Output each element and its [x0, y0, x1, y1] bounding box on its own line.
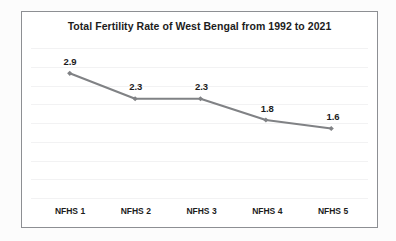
category-label: NFHS 4 — [252, 206, 282, 216]
category-label: NFHS 5 — [318, 206, 348, 216]
data-point-marker — [263, 117, 268, 122]
chart-title: Total Fertility Rate of West Bengal from… — [22, 20, 377, 32]
category-label: NFHS 2 — [121, 206, 151, 216]
chart-frame: Total Fertility Rate of West Bengal from… — [21, 11, 378, 228]
data-point-label: 2.3 — [195, 81, 208, 92]
data-point-marker — [198, 96, 203, 101]
category-label: NFHS 3 — [186, 206, 216, 216]
data-point-marker — [329, 126, 334, 131]
series-markers — [67, 71, 334, 131]
data-point-label: 2.3 — [129, 81, 142, 92]
chart-screenshot: Total Fertility Rate of West Bengal from… — [0, 0, 396, 241]
data-point-label: 1.6 — [326, 111, 339, 122]
data-point-label: 1.8 — [261, 103, 274, 114]
data-point-label: 2.9 — [63, 56, 76, 67]
category-label: NFHS 1 — [55, 206, 85, 216]
plot-area: 2.92.32.31.81.6 NFHS 1NFHS 2NFHS 3NFHS 4… — [23, 36, 376, 226]
